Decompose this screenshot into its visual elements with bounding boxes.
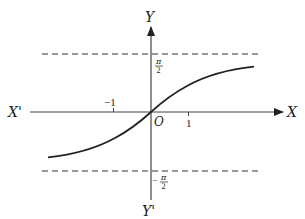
svg-text:−: −: [152, 175, 157, 185]
svg-text:π: π: [160, 173, 167, 182]
svg-text:2: 2: [157, 66, 161, 75]
svg-text:π: π: [155, 57, 162, 66]
upper-asymptote-label: π 2: [155, 57, 163, 75]
x-neg-axis-label: X': [7, 104, 22, 120]
svg-text:2: 2: [162, 182, 166, 191]
tick-label-neg-one: −1: [104, 96, 116, 108]
lower-asymptote-label: − π 2: [152, 173, 168, 191]
y-axis-label: Y: [145, 9, 156, 25]
tick-label-one: 1: [186, 117, 192, 129]
y-neg-axis-label: Y': [142, 203, 155, 219]
arctan-graph: Y Y' X X' O −1 1 π 2 − π 2: [0, 0, 305, 219]
origin-label: O: [154, 115, 164, 129]
x-axis-label: X: [286, 104, 298, 120]
